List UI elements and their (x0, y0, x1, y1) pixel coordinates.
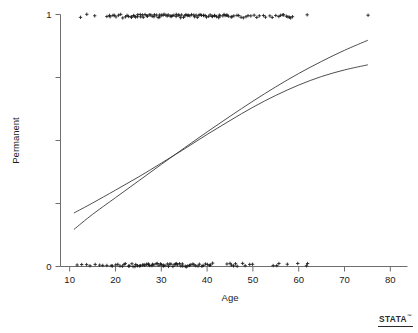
x-axis-tick-labels: 1020304050607080 (64, 274, 395, 285)
stata-logo: STATA™ (378, 311, 413, 327)
x-tick-label: 20 (110, 274, 121, 285)
data-point-marker (235, 265, 238, 268)
data-point-marker (252, 13, 255, 16)
data-point-marker (85, 13, 88, 16)
data-point-marker (249, 14, 252, 17)
data-point-marker (225, 262, 228, 265)
x-axis-title: Age (222, 292, 239, 303)
x-tick-label: 40 (202, 274, 213, 285)
data-point-marker (286, 263, 289, 266)
data-point-marker (121, 265, 124, 268)
x-tick-label: 70 (339, 274, 350, 285)
data-point-marker (274, 14, 277, 17)
data-point-marker (234, 262, 237, 265)
x-tick-label: 80 (385, 274, 396, 285)
x-tick-label: 60 (293, 274, 304, 285)
data-point-marker (366, 14, 369, 17)
data-point-marker (296, 262, 299, 265)
data-point-marker (116, 263, 119, 266)
line-series-logistic-fit (74, 40, 367, 229)
stata-logistic-plot-figure: 1020304050607080 01 Age Permanent STATA™ (0, 0, 418, 333)
data-point-marker (211, 261, 214, 264)
axes-lines (61, 15, 408, 267)
x-tick-label: 10 (64, 274, 75, 285)
x-axis-ticks (70, 267, 391, 272)
scatter-series-permanent-1 (79, 13, 370, 20)
y-axis-tick-labels: 01 (46, 9, 51, 272)
data-point-marker (264, 15, 267, 18)
y-axis-title: Permanent (10, 117, 21, 164)
y-tick-label: 1 (46, 9, 51, 20)
data-point-marker (93, 14, 96, 17)
data-point-marker (237, 14, 240, 17)
data-point-marker (79, 16, 82, 19)
chart-canvas: 1020304050607080 01 Age Permanent (0, 0, 418, 333)
stata-logo-trademark: ™ (406, 313, 411, 319)
y-axis-ticks (56, 15, 61, 267)
data-point-marker (239, 16, 242, 19)
data-point-marker (93, 263, 96, 266)
y-tick-label: 0 (46, 261, 51, 272)
x-tick-label: 30 (156, 274, 167, 285)
data-point-marker (262, 14, 265, 17)
line-series-lowess-smooth (74, 65, 367, 213)
data-point-marker (251, 263, 254, 266)
data-point-marker (85, 263, 88, 266)
scatter-series-permanent-0 (75, 261, 309, 268)
data-point-marker (80, 263, 83, 266)
data-point-marker (305, 13, 308, 16)
data-point-marker (277, 262, 280, 265)
data-point-marker (241, 262, 244, 265)
data-point-marker (130, 16, 133, 19)
stata-logo-text: STATA (378, 314, 406, 324)
data-point-marker (139, 15, 142, 18)
x-tick-label: 50 (248, 274, 259, 285)
